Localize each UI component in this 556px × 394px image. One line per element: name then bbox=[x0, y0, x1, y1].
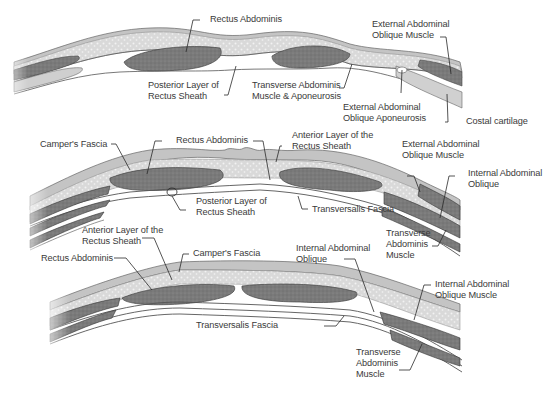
label-middle-rectus-abdominis: Rectus Abdominis bbox=[176, 135, 248, 146]
label-middle-anterior-layer: Anterior Layer of the Rectus Sheath bbox=[292, 130, 373, 152]
label-upper-external-oblique-aponeurosis: External Abdominal Oblique Aponeurosis bbox=[343, 102, 426, 124]
label-lower-transverse-muscle: Transverse Abdominis Muscle bbox=[356, 347, 401, 380]
label-middle-transversalis-fascia: Transversalis Fascia bbox=[312, 204, 394, 215]
label-middle-external-oblique-muscle: External Abdominal Oblique Muscle bbox=[402, 139, 479, 161]
label-lower-internal-oblique: Internal Abdominal Oblique bbox=[296, 243, 370, 265]
label-lower-rectus-abdominis: Rectus Abdominis bbox=[41, 253, 113, 264]
label-lower-internal-oblique-muscle: Internal Abdominal Oblique Muscle bbox=[435, 279, 509, 301]
label-lower-transversalis-fascia: Transversalis Fascia bbox=[196, 320, 278, 331]
label-middle-campers-fascia: Camper's Fascia bbox=[40, 139, 107, 150]
label-upper-posterior-layer: Posterior Layer of Rectus Sheath bbox=[148, 80, 219, 102]
label-lower-campers-fascia: Camper's Fascia bbox=[193, 248, 260, 259]
label-upper-costal-cartilage: Costal cartilage bbox=[466, 116, 528, 127]
label-upper-external-oblique-muscle: External Abdominal Oblique Muscle bbox=[372, 19, 449, 41]
label-upper-transverse-aponeurosis: Transverse Abdominis Muscle & Aponeurosi… bbox=[252, 80, 341, 102]
label-middle-transverse-muscle: Transverse Abdominis Muscle bbox=[386, 228, 431, 261]
label-middle-internal-oblique: Internal Abdominal Oblique bbox=[468, 168, 542, 190]
label-upper-rectus-abdominis: Rectus Abdominis bbox=[210, 14, 282, 25]
label-lower-anterior-layer: Anterior Layer of the Rectus Sheath bbox=[82, 225, 163, 247]
label-middle-posterior-layer: Posterior Layer of Rectus Sheath bbox=[196, 196, 267, 218]
rectus-sheath-diagram bbox=[0, 0, 556, 394]
